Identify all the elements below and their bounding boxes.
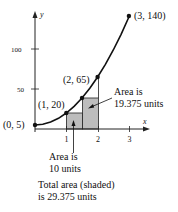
annotation-right-line1: Area is <box>114 86 143 97</box>
chart-figure: y x 1 2 3 50 100 (0, 5) (1, 20) (2, 65) … <box>0 0 178 212</box>
y-tick-label-100: 100 <box>11 46 22 54</box>
point-1-20 <box>64 111 68 115</box>
y-tick-label-50: 50 <box>17 86 25 94</box>
x-tick-label-1: 1 <box>65 135 69 144</box>
annotation-left-line1: Area is <box>49 151 78 162</box>
rectangle-1 <box>67 113 83 129</box>
curve <box>35 113 66 125</box>
annotation-right-line2: 19.375 units <box>114 98 164 109</box>
point-3-140 <box>127 14 131 18</box>
point-2-65 <box>95 75 99 79</box>
x-tick-label-3: 3 <box>128 135 132 144</box>
x-axis-label: x <box>142 117 147 126</box>
point-label-0-5: (0, 5) <box>3 119 25 131</box>
y-axis-label: y <box>39 10 44 19</box>
point-label-3-140: (3, 140) <box>134 10 166 22</box>
point-0-5 <box>33 123 37 127</box>
rectangle-2 <box>83 98 99 129</box>
point-label-2-65: (2, 65) <box>63 74 90 86</box>
x-tick-label-2: 2 <box>96 135 100 144</box>
point-label-1-20: (1, 20) <box>38 99 65 111</box>
point-1.5-38.75 <box>80 96 84 100</box>
annotation-total-line2: is 29.375 units <box>38 191 97 202</box>
y-axis-arrow-icon <box>33 11 38 18</box>
x-axis-arrow-icon <box>143 127 150 132</box>
annotation-total-line1: Total area (shaded) <box>38 179 114 191</box>
annotation-left-line2: 10 units <box>49 163 81 174</box>
